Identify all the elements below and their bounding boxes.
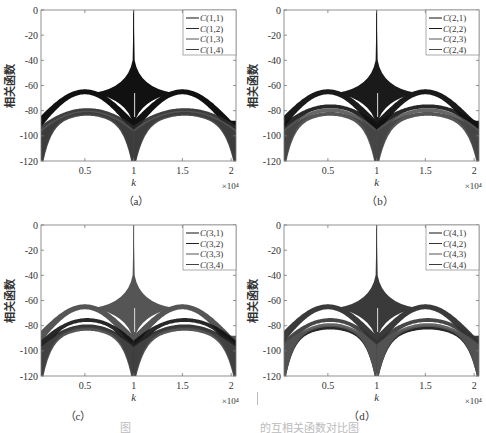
x-tick-label: 1 [374,165,379,176]
y-tick-label: -100 [263,345,281,356]
legend-entry: C(3,4) [200,260,223,270]
legend-entry: C(1,1) [200,13,223,23]
subplot-c: 0-20-40-60-80-100-1200.511.52k×10⁴相关函数C(… [0,215,243,430]
y-tick-label: -40 [268,270,281,281]
y-tick-label: -80 [268,105,281,116]
y-tick-label: -40 [25,270,38,281]
legend: C(1,1)C(1,2)C(1,3)C(1,4) [183,10,236,55]
figure-caption-body: 的互相关函数对比图 [260,419,359,433]
x-axis-label: k [374,391,380,403]
x-tick-label: 0.5 [322,380,335,391]
y-tick-label: -40 [25,55,38,66]
x-tick-label: 0.5 [79,380,92,391]
y-tick-label: 0 [33,5,38,16]
y-tick-label: -100 [263,130,281,141]
legend: C(3,1)C(3,2)C(3,3)C(3,4) [183,225,236,270]
y-tick-label: -20 [268,30,281,41]
y-tick-label: 0 [276,5,281,16]
x-multiplier: ×10⁴ [465,396,482,406]
legend-entry: C(4,4) [443,260,466,270]
x-tick-label: 0.5 [79,165,92,176]
x-tick-label: 1.5 [419,165,432,176]
legend: C(4,1)C(4,2)C(4,3)C(4,4) [426,225,479,270]
legend-entry: C(3,3) [200,249,223,259]
chart-svg: 0-20-40-60-80-100-1200.511.52k×10⁴相关函数C(… [243,215,486,430]
y-tick-label: -60 [268,295,281,306]
figure-caption: 图 的互相关函数对比图 [0,419,486,433]
y-tick-label: -20 [268,245,281,256]
y-tick-label: -40 [268,55,281,66]
y-tick-label: -80 [268,320,281,331]
x-multiplier: ×10⁴ [222,181,239,191]
x-tick-label: 2 [472,165,477,176]
x-multiplier: ×10⁴ [465,181,482,191]
chart-svg: 0-20-40-60-80-100-1200.511.52k×10⁴相关函数C(… [0,0,243,215]
chart-svg: 0-20-40-60-80-100-1200.511.52k×10⁴相关函数C(… [243,0,486,215]
divider-mark [257,392,258,405]
legend-entry: C(4,1) [443,228,466,238]
x-tick-label: 2 [472,380,477,391]
y-tick-label: 0 [276,220,281,231]
y-tick-label: 0 [33,220,38,231]
figure-caption-prefix: 图 [120,419,131,433]
y-tick-label: -80 [25,105,38,116]
legend-entry: C(1,2) [200,24,223,34]
subplot-b: 0-20-40-60-80-100-1200.511.52k×10⁴相关函数C(… [243,0,486,215]
legend-entry: C(4,2) [443,239,466,249]
legend-entry: C(4,3) [443,249,466,259]
y-tick-label: -60 [25,80,38,91]
y-tick-label: -60 [268,80,281,91]
legend-entry: C(1,3) [200,34,223,44]
subplot-a-label: （a） [106,192,166,208]
legend-entry: C(2,1) [443,13,466,23]
y-tick-label: -60 [25,295,38,306]
x-multiplier: ×10⁴ [222,396,239,406]
x-tick-label: 2 [229,380,234,391]
y-tick-label: -80 [25,320,38,331]
legend-entry: C(2,3) [443,34,466,44]
legend-entry: C(3,1) [200,228,223,238]
y-tick-label: -120 [20,371,38,382]
y-axis-label: 相关函数 [3,63,17,108]
x-axis-label: k [131,391,137,403]
y-tick-label: -20 [25,245,38,256]
subplot-a: 0-20-40-60-80-100-1200.511.52k×10⁴相关函数C(… [0,0,243,215]
x-tick-label: 1 [131,165,136,176]
y-tick-label: -120 [263,371,281,382]
y-tick-label: -20 [25,30,38,41]
subplot-d: 0-20-40-60-80-100-1200.511.52k×10⁴相关函数C(… [243,215,486,430]
x-tick-label: 1.5 [176,380,189,391]
x-axis-label: k [131,176,137,188]
y-axis-label: 相关函数 [246,278,260,323]
legend-entry: C(3,2) [200,239,223,249]
y-tick-label: -100 [20,345,38,356]
y-tick-label: -120 [263,156,281,167]
x-tick-label: 2 [229,165,234,176]
x-tick-label: 1.5 [176,165,189,176]
x-tick-label: 1 [131,380,136,391]
y-axis-label: 相关函数 [246,63,260,108]
legend: C(2,1)C(2,2)C(2,3)C(2,4) [426,10,479,55]
x-tick-label: 0.5 [322,165,335,176]
x-axis-label: k [374,176,380,188]
subplot-b-label: （b） [350,192,410,208]
legend-entry: C(2,4) [443,45,466,55]
legend-entry: C(2,2) [443,24,466,34]
legend-entry: C(1,4) [200,45,223,55]
y-tick-label: -120 [20,156,38,167]
chart-svg: 0-20-40-60-80-100-1200.511.52k×10⁴相关函数C(… [0,215,243,430]
x-tick-label: 1.5 [419,380,432,391]
y-axis-label: 相关函数 [3,278,17,323]
x-tick-label: 1 [374,380,379,391]
y-tick-label: -100 [20,130,38,141]
